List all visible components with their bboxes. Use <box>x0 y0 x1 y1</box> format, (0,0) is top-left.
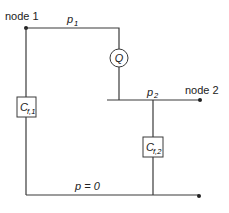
ground-node-dot <box>197 194 201 198</box>
node2-label: node 2 <box>185 84 219 96</box>
p0-label: p = 0 <box>74 180 101 192</box>
circuit-diagram: Q node 1 node 2 p 1 p 2 p = 0 C f,1 C f,… <box>0 0 229 213</box>
cf1-subscript: f,1 <box>27 107 35 116</box>
p1-subscript: 1 <box>74 19 78 28</box>
flow-source-label: Q <box>115 52 124 64</box>
node2-dot <box>198 98 202 102</box>
cf2-subscript: f,2 <box>153 147 162 156</box>
node1-label: node 1 <box>5 10 39 22</box>
wire-p1 <box>26 28 119 49</box>
p2-subscript: 2 <box>153 91 159 100</box>
p2-symbol: p <box>146 86 153 98</box>
p1-symbol: p <box>66 13 73 25</box>
